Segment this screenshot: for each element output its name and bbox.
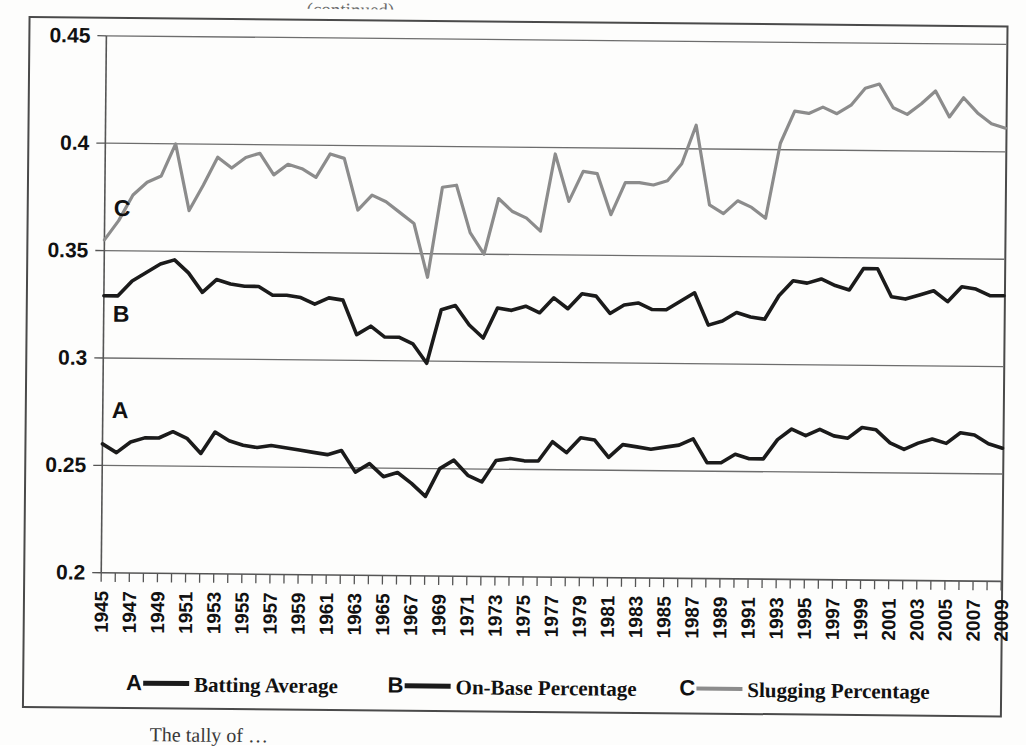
gridline	[105, 143, 1005, 152]
legend-letter-b: B	[388, 673, 404, 698]
x-tick-label: 1997	[822, 598, 843, 640]
chart-legend: ABatting AverageBOn-Base PercentageCSlug…	[126, 670, 930, 704]
gridline	[102, 465, 1002, 474]
x-tick-label: 1973	[484, 594, 505, 636]
x-tick-label: 1991	[737, 596, 758, 639]
x-tick-label: 1989	[709, 597, 730, 639]
x-tick-label: 1983	[625, 596, 646, 638]
series-line-b	[103, 259, 1004, 369]
series-line-a	[102, 420, 1003, 502]
x-tick-label: 2001	[878, 598, 899, 641]
y-tick-label: 0.3	[58, 346, 87, 369]
gridline	[104, 251, 1004, 260]
x-axis-tick-labels: 1945194719491951195319551957195919611963…	[91, 590, 1012, 642]
gridline	[103, 358, 1003, 367]
x-tick-label: 2005	[934, 598, 955, 641]
x-tick-label: 1987	[681, 596, 702, 638]
series-tag-c: C	[114, 195, 131, 221]
y-axis-tick-labels: 0.20.250.30.350.40.45	[44, 23, 91, 583]
x-tick-label: 1981	[597, 595, 618, 638]
y-axis-line	[101, 36, 106, 573]
series-inline-tags: ABC	[112, 195, 131, 423]
x-tick-label: 1953	[203, 592, 224, 634]
x-tick-label: 1979	[569, 595, 590, 637]
y-tick-label: 0.4	[60, 131, 90, 154]
axis-lines	[101, 36, 1006, 582]
x-tick-label: 1971	[456, 594, 477, 637]
x-tick-label: 1993	[766, 597, 787, 639]
x-tick-label: 2007	[962, 599, 983, 641]
y-tick-label: 0.2	[56, 560, 85, 583]
x-tick-label: 1999	[850, 598, 871, 640]
x-tick-label: 1955	[231, 592, 252, 635]
x-tick-label: 1965	[372, 593, 393, 636]
x-axis-ticks	[101, 573, 1001, 591]
legend-label-b: On-Base Percentage	[456, 675, 637, 701]
legend-label-a: Batting Average	[194, 673, 338, 698]
x-tick-label: 1995	[794, 597, 815, 640]
y-tick-label: 0.45	[49, 23, 90, 46]
x-tick-label: 2009	[991, 599, 1012, 641]
line-chart: 0.20.250.30.350.40.45 194519471949195119…	[0, 0, 1026, 750]
series-tag-a: A	[112, 397, 129, 423]
legend-label-c: Slugging Percentage	[747, 678, 929, 704]
gridlines	[102, 36, 1006, 474]
y-tick-label: 0.35	[47, 238, 88, 261]
x-tick-label: 1951	[175, 591, 196, 634]
x-tick-label: 1969	[428, 594, 449, 636]
data-series-lines	[102, 77, 1006, 502]
x-tick-label: 1967	[400, 594, 421, 636]
x-tick-label: 1957	[259, 592, 280, 634]
legend-letter-c: C	[679, 675, 695, 700]
x-tick-label: 1959	[288, 593, 309, 635]
series-tag-b: B	[113, 301, 130, 327]
x-tick-label: 1947	[119, 591, 140, 633]
x-tick-label: 1963	[344, 593, 365, 635]
x-tick-label: 2003	[906, 599, 927, 641]
chart-plot-area: 0.20.250.30.350.40.45 194519471949195119…	[0, 0, 1026, 750]
gridline	[106, 36, 1006, 45]
legend-letter-a: A	[126, 670, 142, 695]
x-tick-label: 1949	[147, 591, 168, 633]
y-tick-label: 0.25	[45, 453, 86, 476]
x-tick-label: 1945	[91, 590, 112, 633]
x-tick-label: 1977	[541, 595, 562, 637]
x-tick-label: 1985	[653, 596, 674, 639]
x-tick-label: 1961	[316, 592, 337, 635]
x-tick-label: 1975	[513, 594, 534, 637]
scan-skew-wrapper: (continued) 0.20.250.30.350.40.45 194519…	[0, 0, 1026, 750]
